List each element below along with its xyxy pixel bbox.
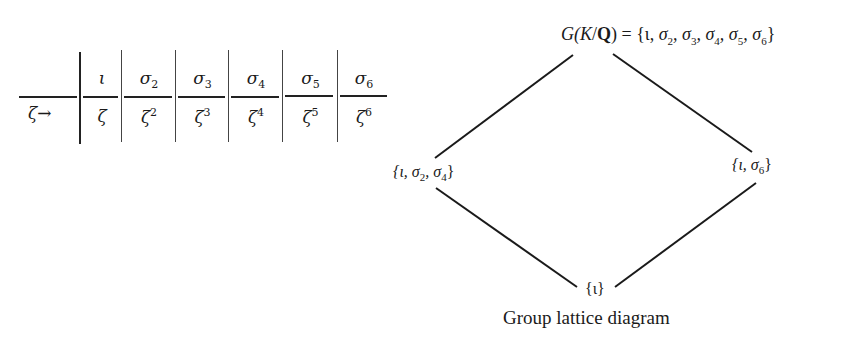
lattice-node-top: G(K/Q) = {ι, σ2, σ3, σ4, σ5, σ6} [561, 24, 775, 47]
lattice-node-bottom: {ι} [585, 280, 605, 298]
diagram-caption: Group lattice diagram [503, 307, 670, 329]
edge-top-left [435, 55, 573, 158]
edge-top-right [613, 54, 752, 152]
lattice-node-right: {ι, σ6} [732, 156, 772, 176]
edge-left-bottom [436, 188, 577, 287]
edge-right-bottom [615, 183, 756, 287]
lattice-node-left: {ι, σ2, σ4} [393, 163, 454, 183]
